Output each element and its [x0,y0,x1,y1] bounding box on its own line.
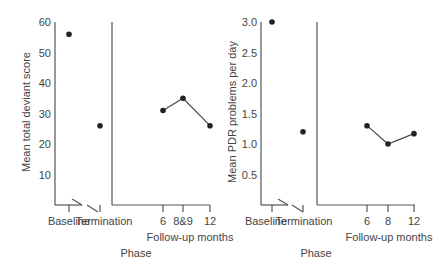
follow-up-trend-line [163,98,210,125]
data-point [160,108,166,114]
axis-break-mark [87,205,98,212]
y-tick-label: 1.5 [242,108,257,120]
x-axis-title: Phase [300,247,331,259]
x-tick-label: 6 [160,215,166,227]
y-tick-label: 2.5 [242,47,257,59]
x-axis-title: Phase [120,247,151,259]
y-tick-label: 30 [39,108,51,120]
x-tick-label: Termination [76,215,133,227]
data-point [180,95,186,101]
x-tick-label: 8 [385,215,391,227]
data-point [300,129,306,135]
y-tick-label: 20 [39,138,51,150]
x-tick-label: 6 [364,215,370,227]
follow-up-trend-line [367,126,414,144]
x-ticks: BaselineTermination6812 [245,205,420,227]
y-tick-label: 40 [39,77,51,89]
data-point [207,123,213,129]
data-point [364,123,370,129]
axis-break-mark [292,205,303,212]
x-axis-subtitle: Follow-up months [147,231,234,243]
data-series [269,19,417,147]
x-tick-label: 12 [204,215,216,227]
x-tick-label: 12 [408,215,420,227]
x-ticks: BaselineTermination68&912 [48,205,216,227]
charts-canvas: Mean total deviant score 102030405060 Ba… [0,0,446,273]
data-series [66,31,213,128]
y-tick-label: 60 [39,16,51,28]
data-point [66,31,72,37]
y-tick-label: 2.0 [242,77,257,89]
axis-break-mark [278,199,288,205]
y-tick-label: 50 [39,47,51,59]
deviant-score-chart: Mean total deviant score 102030405060 Ba… [20,16,234,259]
y-tick-label: 10 [39,169,51,181]
data-point [97,123,103,129]
y-tick-labels: 102030405060 [39,16,51,181]
axis-break-mark [72,199,82,205]
data-point [269,19,275,25]
y-tick-label: 0.5 [242,169,257,181]
y-tick-labels: 0.51.01.52.02.53.0 [242,16,257,181]
x-tick-label: Termination [276,215,333,227]
y-axis-title: Mean total deviant score [20,52,32,172]
y-tick-label: 1.0 [242,138,257,150]
y-axis-title: Mean PDR problems per day [226,41,238,183]
data-point [411,131,417,137]
data-point [385,141,391,147]
y-tick-label: 3.0 [242,16,257,28]
x-tick-label: 8&9 [173,215,193,227]
pdr-problems-chart: Mean PDR problems per day 0.51.01.52.02.… [226,16,433,259]
x-axis-subtitle: Follow-up months [346,231,433,243]
